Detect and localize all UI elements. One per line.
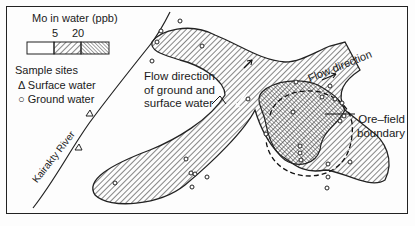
legend-threshold-5: 5: [52, 27, 58, 40]
surface-water-site: [75, 144, 82, 150]
label-line: of ground and: [144, 84, 215, 98]
legend-surface-water: Δ Surface water: [18, 79, 96, 92]
flow-direction-ground-surface-label: Flow direction of ground and surface wat…: [144, 70, 215, 111]
legend-bar: [27, 42, 109, 54]
label-line: boundary: [357, 127, 405, 141]
map-canvas: [0, 0, 415, 226]
label-line: Ore–field: [357, 113, 405, 127]
surface-water-site: [86, 110, 93, 116]
legend-title: Mo in water (ppb): [32, 12, 118, 25]
label-line: Flow direction: [144, 70, 215, 84]
legend-ground-water: ○ Ground water: [18, 93, 94, 106]
label-line: surface water: [144, 97, 215, 111]
ore-field-boundary-label: Ore–field boundary: [357, 113, 405, 140]
legend-sample-sites: Sample sites: [15, 64, 78, 77]
legend-threshold-20: 20: [72, 27, 84, 40]
